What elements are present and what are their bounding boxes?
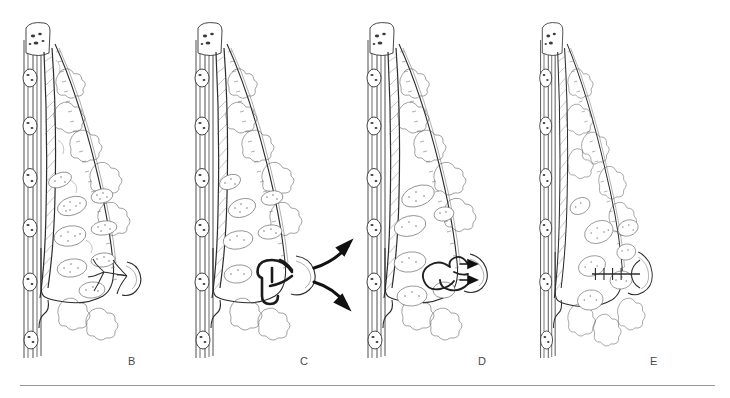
flow-arrow-upper-d (460, 260, 477, 268)
chest-wall-b (23, 23, 56, 358)
panel-c-drawing (172, 0, 352, 378)
inframammary-fold-b (39, 300, 49, 328)
panel-label-d: D (478, 355, 486, 367)
rib-sections-c (195, 69, 210, 349)
figure-canvas: B C D E (0, 0, 730, 398)
chest-wall-c (195, 23, 228, 358)
nipple-contour-c (291, 256, 315, 295)
panel-d-drawing (344, 0, 524, 378)
panel-c-dilated-ducts (172, 0, 352, 378)
figure-baseline-rule (20, 385, 715, 386)
panel-e-nipple-retraction (520, 0, 700, 378)
discharge-arrow-down-c (314, 282, 348, 308)
flow-arrows-d[interactable] (460, 260, 477, 284)
rib-sections-b (23, 69, 38, 349)
nipple-areola-c (291, 256, 315, 295)
chest-wall-d (367, 23, 400, 358)
glandular-lobules-c (217, 171, 284, 284)
panel-b-drawing (0, 0, 180, 378)
panel-d-tortuous-ducts (344, 0, 524, 378)
pectoralis-anterior-border-b (48, 48, 56, 288)
panel-label-b: B (128, 355, 136, 367)
panel-label-e: E (650, 355, 658, 367)
panel-label-c: C (300, 355, 308, 367)
panel-b-normal-breast (0, 0, 180, 378)
rib-sections-e (540, 69, 553, 349)
flow-arrow-lower-d (460, 276, 477, 284)
glandular-lobules-b (46, 169, 118, 299)
panel-e-drawing (520, 0, 700, 378)
dilated-ducts-c (258, 260, 293, 304)
chest-wall-e (540, 23, 568, 358)
rib-sections-d (367, 69, 382, 349)
